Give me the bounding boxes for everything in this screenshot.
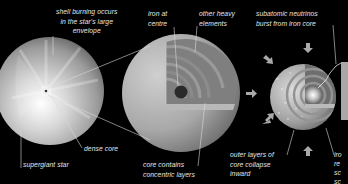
label-iron-at-centre: iron at centre [148,9,167,28]
label-line: burst from iron core [256,19,318,29]
label-outer-layers-collapse: outer layers of core collapse inward [230,150,274,179]
supergiant-star [0,37,104,145]
label-line: iro [334,150,342,159]
label-line: dense core [84,144,118,154]
label-line: other heavy [199,9,235,19]
arrow-up-icon [303,146,313,156]
label-line: core contains [143,160,195,170]
label-line: elements [199,19,235,29]
label-line: iron at [148,9,167,19]
supernova-diagram: shell burning occurs in the star's large… [0,0,348,184]
label-line: in the star's large [56,17,117,27]
label-line: envelope [56,26,117,36]
label-line: outer layers of [230,150,274,160]
label-line: sc [334,177,342,184]
label-line: supergiant star [23,160,69,170]
label-line: centre [148,19,167,29]
label-supergiant-star: supergiant star [23,160,69,170]
label-core-contains-layers: core contains concentric layers [143,160,195,179]
label-line: shell burning occurs [56,7,117,17]
arrow-down-icon [303,43,313,53]
arrow-down-right-icon [263,55,273,64]
collapsing-core-star [270,62,348,130]
label-line: subatomic neutrinos [256,9,318,19]
label-iron-core-rebound-cutoff: iro re sc sc [334,150,342,184]
label-shell-burning: shell burning occurs in the star's large… [56,7,117,36]
label-line: sc [334,168,342,177]
label-other-heavy-elements: other heavy elements [199,9,235,28]
label-line: re [334,159,342,168]
label-neutrinos-burst: subatomic neutrinos burst from iron core [256,9,318,28]
label-dense-core: dense core [84,144,118,154]
arrow-right-icon [246,89,257,98]
label-line: inward [230,169,274,179]
label-line: core collapse [230,160,274,170]
core-cutaway-star [122,34,240,152]
label-line: concentric layers [143,170,195,180]
